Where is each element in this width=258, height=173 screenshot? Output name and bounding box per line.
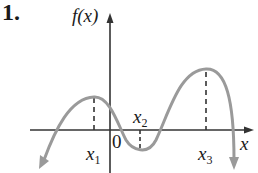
- y-axis-label: f(x): [72, 6, 98, 25]
- x2-label: x2: [133, 107, 147, 129]
- x1-label: x1: [86, 144, 100, 166]
- y-axis-arrow-icon: [107, 13, 114, 23]
- x3-label: x3: [198, 144, 212, 166]
- function-graph-figure: 1. f(x) x 0 x1 x2 x3: [0, 0, 258, 173]
- graph-canvas: [0, 0, 258, 173]
- curve-right-arrow-icon: [229, 157, 239, 170]
- x-axis-label: x: [240, 134, 248, 153]
- origin-label: 0: [112, 132, 122, 151]
